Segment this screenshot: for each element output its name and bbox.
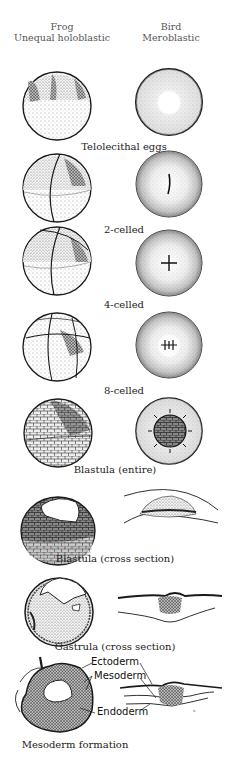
embryo-illustrations: s. (0, 0, 248, 768)
frog-mesoderm-formation (15, 657, 92, 732)
caption-gastrula-cross-section: Gastrula (cross section) (50, 641, 180, 652)
caption-blastula-entire: Blastula (entire) (60, 464, 170, 475)
caption-telolecithal-eggs: Telolecithal eggs (76, 141, 172, 152)
caption-mesoderm-formation: Mesoderm formation (10, 739, 140, 750)
frog-2-celled (23, 154, 91, 222)
label-endoderm: Endoderm (97, 706, 148, 717)
label-ectoderm: Ectoderm (91, 656, 139, 667)
caption-8-celled: 8-celled (76, 385, 172, 396)
bird-4-celled (136, 230, 202, 296)
frog-8-celled (23, 313, 91, 381)
bird-egg (136, 69, 202, 135)
frog-gastrula-cross-section (25, 578, 93, 646)
bird-2-celled (136, 151, 202, 217)
caption-4-celled: 4-celled (76, 299, 172, 310)
frog-blastula-entire (24, 399, 92, 467)
bird-8-celled (136, 312, 202, 378)
frog-egg (23, 72, 91, 140)
artist-signature: s. (193, 708, 196, 713)
bird-blastula-cross-section (124, 490, 218, 523)
bird-blastula-entire (136, 398, 202, 464)
frog-4-celled (23, 227, 91, 295)
bird-gastrula-cross-section (118, 593, 222, 622)
caption-blastula-cross-section: Blastula (cross section) (50, 553, 180, 564)
caption-2-celled: 2-celled (76, 224, 172, 235)
label-mesoderm: Mesoderm (94, 670, 146, 681)
